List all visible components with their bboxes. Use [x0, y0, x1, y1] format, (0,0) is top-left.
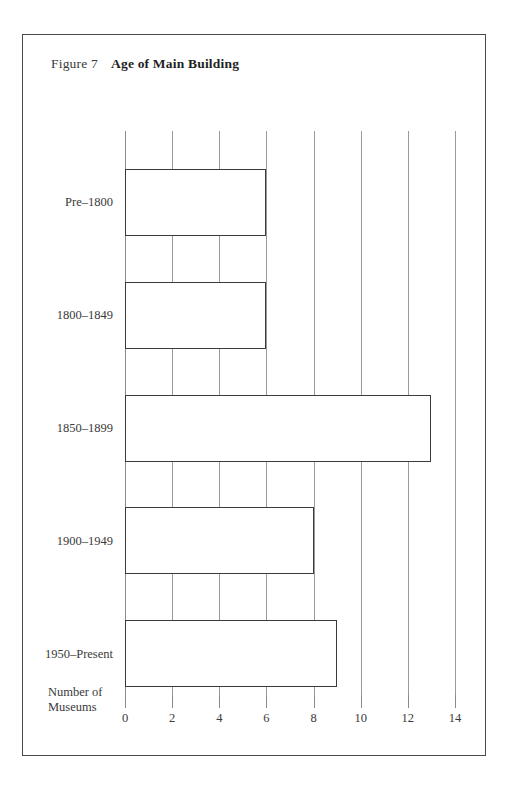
tick-x-8 [314, 695, 315, 708]
category-label-3: 1900–1949 [57, 533, 113, 548]
tick-label-x-10: 10 [354, 711, 367, 726]
tick-x-0 [125, 695, 126, 708]
figure-frame: Figure 7Age of Main Building Pre–1800180… [22, 34, 486, 756]
gridline-x-14 [455, 131, 456, 695]
tick-x-6 [266, 695, 267, 708]
tick-x-10 [361, 695, 362, 708]
tick-x-4 [219, 695, 220, 708]
category-label-0: Pre–1800 [65, 195, 113, 210]
bar-1950-present [125, 620, 337, 687]
category-label-4: 1950–Present [45, 646, 113, 661]
x-axis-title-line-1: Number of [48, 685, 103, 700]
figure-number: Figure 7 [51, 56, 98, 71]
plot-area: 02468101214 [125, 131, 456, 695]
tick-label-x-2: 2 [169, 711, 175, 726]
tick-x-2 [172, 695, 173, 708]
bar-1900-1949 [125, 507, 314, 574]
tick-label-x-14: 14 [449, 711, 462, 726]
tick-label-x-4: 4 [216, 711, 222, 726]
x-axis-title-line-2: Museums [48, 700, 103, 715]
tick-label-x-8: 8 [310, 711, 316, 726]
tick-x-14 [455, 695, 456, 708]
x-axis-title: Number of Museums [48, 685, 103, 715]
bar-pre-1800 [125, 169, 266, 236]
tick-label-x-0: 0 [122, 711, 128, 726]
tick-x-12 [408, 695, 409, 708]
figure-title: Age of Main Building [111, 56, 239, 71]
category-label-1: 1800–1849 [57, 308, 113, 323]
tick-label-x-6: 6 [263, 711, 269, 726]
bar-1850-1899 [125, 395, 431, 462]
bar-1800-1849 [125, 282, 266, 349]
tick-label-x-12: 12 [402, 711, 415, 726]
figure-caption: Figure 7Age of Main Building [51, 56, 239, 72]
category-label-2: 1850–1899 [57, 421, 113, 436]
category-axis-labels: Pre–18001800–18491850–18991900–19491950–… [23, 131, 125, 695]
